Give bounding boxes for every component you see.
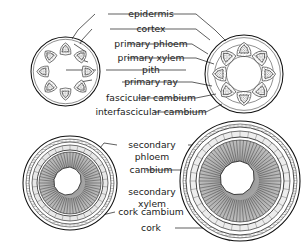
stem-cross-section-diagram: epidermis cortex primary phloem primary … (0, 0, 303, 252)
label-cortex: cortex (137, 23, 167, 34)
label-cork: cork (141, 222, 161, 233)
label-primary-xylem: primary xylem (118, 52, 185, 63)
label-epidermis: epidermis (128, 8, 174, 19)
label-secondary-xylem-line1: secondary (128, 186, 176, 197)
label-cork-cambium: cork cambium (118, 206, 184, 217)
label-secondary-phloem-line2: phloem (135, 151, 169, 162)
panel-stem-advanced-secondary-growth (180, 121, 300, 241)
label-secondary-phloem-line1: secondary (128, 139, 176, 150)
label-fascicular-cambium: fascicular cambium (106, 92, 196, 103)
label-primary-phloem: primary phloem (114, 38, 187, 49)
label-interfascicular-cambium: interfascicular cambium (95, 106, 206, 117)
diagram-canvas: epidermis cortex primary phloem primary … (0, 0, 303, 252)
label-cambium: cambium (130, 164, 173, 175)
panel-stem-early-secondary-growth (23, 136, 117, 230)
label-primary-ray: primary ray (124, 76, 178, 87)
label-pith: pith (142, 64, 160, 75)
